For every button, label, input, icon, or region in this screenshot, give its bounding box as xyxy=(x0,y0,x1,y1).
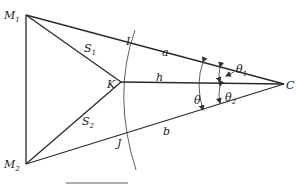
segment-h xyxy=(121,82,284,84)
theta1-pointer xyxy=(226,72,234,76)
angle-theta1-arc xyxy=(219,67,220,82)
label-h: h xyxy=(156,71,163,84)
segment-s1 xyxy=(26,15,121,82)
label-m2: M2 xyxy=(3,158,20,173)
label-k: K xyxy=(106,78,116,91)
arc-ikj xyxy=(124,30,136,170)
label-theta: θ xyxy=(194,94,201,107)
diagram-svg: M1 M2 S1 S2 K I J C a b h θ θ1 θ2 xyxy=(0,0,296,192)
label-s2: S2 xyxy=(82,115,95,130)
label-i: I xyxy=(125,35,131,48)
label-s1: S1 xyxy=(84,42,96,57)
label-m1: M1 xyxy=(3,9,20,24)
label-b: b xyxy=(163,125,170,138)
segment-s2 xyxy=(26,82,121,164)
angle-theta2-arc xyxy=(219,86,220,103)
segment-b xyxy=(26,84,284,164)
label-c: C xyxy=(286,79,295,92)
label-j: J xyxy=(115,137,122,150)
label-theta1: θ1 xyxy=(236,63,247,78)
label-theta2: θ2 xyxy=(225,91,237,106)
geometry-diagram: M1 M2 S1 S2 K I J C a b h θ θ1 θ2 xyxy=(0,0,296,192)
label-a: a xyxy=(162,46,169,59)
